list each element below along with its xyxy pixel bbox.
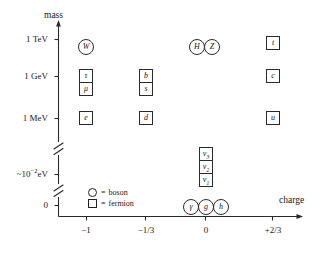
y-tick-label-mev: 1 MeV <box>23 114 48 123</box>
particle-label-nu1: ν1 <box>203 176 209 184</box>
legend-equals-boson: = <box>101 189 106 197</box>
particle-marker-nu2[interactable]: ν2 <box>199 160 213 174</box>
particle-label-u-quark: u <box>271 114 275 122</box>
particle-marker-photon[interactable]: γ <box>183 199 199 215</box>
particle-label-t-quark: t <box>272 39 274 47</box>
particle-marker-graviton[interactable]: h <box>213 199 229 215</box>
particle-marker-d-quark[interactable]: d <box>139 111 153 125</box>
x-tick-label-zero: 0 <box>204 226 209 235</box>
x-tick-label-plus-twothirds: +2/3 <box>265 226 282 235</box>
square-icon <box>88 199 97 208</box>
particle-label-b-quark: b <box>144 72 148 80</box>
y-tick-label-ev-unit: eV <box>38 169 49 179</box>
particle-marker-nu1[interactable]: ν1 <box>199 173 213 187</box>
particle-marker-tau[interactable]: τ <box>79 69 93 83</box>
particle-label-W: W <box>83 43 90 51</box>
x-axis-title: charge <box>279 196 304 206</box>
y-axis-title: mass <box>44 11 63 21</box>
particle-marker-W[interactable]: W <box>78 39 94 55</box>
particle-marker-electron[interactable]: e <box>79 111 93 125</box>
particle-marker-s-quark[interactable]: s <box>139 82 153 96</box>
y-tick-label-gev: 1 GeV <box>24 72 48 81</box>
particle-label-nu2: ν2 <box>203 163 209 171</box>
particle-label-higgs: H <box>194 43 200 51</box>
x-axis-arrowhead <box>297 214 304 219</box>
particle-marker-c-quark[interactable]: c <box>266 69 280 83</box>
y-tick-label-ev: ~10−2eV <box>17 170 48 179</box>
legend-equals-fermion: = <box>101 200 106 208</box>
particle-marker-gluon[interactable]: g <box>198 199 214 215</box>
particle-label-mu: μ <box>84 85 88 93</box>
particle-label-nu1-index: 1 <box>206 180 209 186</box>
particle-marker-u-quark[interactable]: u <box>266 111 280 125</box>
y-tick-label-ev-mantissa: ~10 <box>17 169 31 179</box>
x-tick-label-minus-third: −1/3 <box>138 226 155 235</box>
particle-label-electron: e <box>84 114 88 122</box>
particle-label-tau: τ <box>85 72 88 80</box>
x-tick-label-minus1: −1 <box>81 226 91 235</box>
particle-marker-mu[interactable]: μ <box>79 82 93 96</box>
particle-marker-t-quark[interactable]: t <box>266 36 280 50</box>
legend-row-boson: = boson <box>88 187 134 198</box>
y-tick-label-tev: 1 TeV <box>26 35 48 44</box>
y-tick-label-ev-exponent: −2 <box>31 167 38 174</box>
particle-label-gluon: g <box>204 203 208 211</box>
legend: = boson = fermion <box>88 187 134 209</box>
legend-label-fermion: fermion <box>109 200 134 208</box>
particle-label-s-quark: s <box>144 85 147 93</box>
particle-marker-b-quark[interactable]: b <box>139 69 153 83</box>
circle-icon <box>88 188 97 197</box>
particle-label-d-quark: d <box>144 114 148 122</box>
y-tick-label-zero: 0 <box>44 201 49 210</box>
legend-label-boson: boson <box>109 189 128 197</box>
y-axis-arrowhead <box>56 20 61 27</box>
particle-marker-higgs[interactable]: H <box>189 39 205 55</box>
particle-label-Z: Z <box>210 43 214 51</box>
particle-marker-Z[interactable]: Z <box>204 39 220 55</box>
particle-mass-charge-chart: mass charge 1 TeV 1 GeV 1 MeV ~10−2eV 0 … <box>0 0 323 253</box>
particle-label-photon: γ <box>189 203 192 211</box>
particle-marker-nu3[interactable]: ν3 <box>199 147 213 161</box>
particle-label-graviton: h <box>219 203 223 211</box>
particle-label-nu3-index: 3 <box>206 154 209 160</box>
particle-label-c-quark: c <box>271 72 275 80</box>
particle-label-nu2-index: 2 <box>206 167 209 173</box>
legend-row-fermion: = fermion <box>88 198 134 209</box>
particle-label-nu3: ν3 <box>203 150 209 158</box>
